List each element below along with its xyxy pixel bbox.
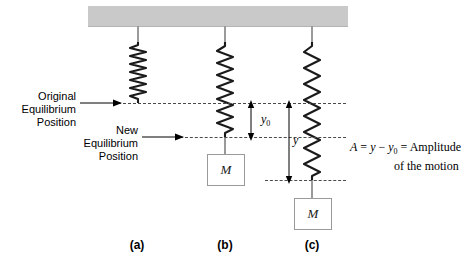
formula-amplitude-word: Amplitude <box>410 140 461 154</box>
mass-label-b: M <box>221 162 232 178</box>
original-equilibrium-line1: Original <box>4 90 76 103</box>
new-equilibrium-line1: New <box>62 124 138 137</box>
spring-c <box>300 42 324 180</box>
new-equilibrium-line2: Equilibrium <box>62 137 138 150</box>
spring-a <box>126 42 150 103</box>
new-equilibrium-line <box>180 137 346 138</box>
y-label: y <box>293 133 298 148</box>
panel-label-c: (c) <box>293 238 331 252</box>
new-equilibrium-line3: Position <box>62 150 138 163</box>
y0-dimension-arrow <box>245 100 257 141</box>
ceiling-support <box>88 6 348 27</box>
original-equilibrium-line2: Equilibrium <box>4 103 76 116</box>
rod-c-bottom <box>311 180 313 198</box>
rod-b-bottom <box>224 137 226 154</box>
panel-label-a: (a) <box>118 238 156 252</box>
original-equilibrium-line <box>118 103 346 104</box>
new-equilibrium-arrow <box>142 131 184 143</box>
original-equilibrium-arrow <box>80 97 122 109</box>
y0-label: y0 <box>261 112 270 128</box>
new-equilibrium-label: New Equilibrium Position <box>62 124 138 163</box>
amplitude-formula: A = y − y0 = Amplitude of the motion <box>350 140 461 173</box>
displaced-position-line <box>265 180 346 181</box>
rod-c-top <box>311 26 313 42</box>
mass-block-b: M <box>207 154 245 186</box>
spring-mass-diagram: M M Original Equilibrium Position New Eq… <box>0 0 461 261</box>
rod-a-top <box>137 26 139 42</box>
amplitude-formula-line2: of the motion <box>350 159 461 173</box>
spring-b <box>213 42 237 137</box>
amplitude-formula-line1: A = y − y0 = Amplitude <box>350 140 461 159</box>
mass-label-c: M <box>308 206 319 222</box>
panel-label-b: (b) <box>206 238 244 252</box>
mass-block-c: M <box>294 198 332 230</box>
rod-b-top <box>224 26 226 42</box>
